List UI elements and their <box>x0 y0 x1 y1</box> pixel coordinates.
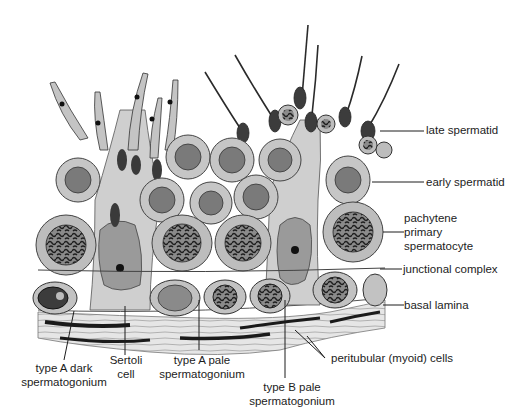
label-pachytene-line-2: primary <box>404 226 442 239</box>
label-junctional-complex: junctional complex <box>403 263 498 276</box>
label-type-b-pale-line-2: spermatogonium <box>245 395 339 408</box>
label-sertoli-line-1: Sertoli <box>105 354 147 367</box>
late-spermatids <box>205 25 399 128</box>
label-early-spermatid: early spermatid <box>426 176 505 189</box>
label-sertoli-line-2: cell <box>105 368 147 381</box>
label-peritubular-cells: peritubular (myoid) cells <box>331 352 453 365</box>
seminiferous-epithelium-diagram: late spermatid early spermatid pachytene… <box>0 0 522 418</box>
label-type-a-dark-line-1: type A dark <box>12 362 116 375</box>
spermatogonia <box>33 272 387 316</box>
label-late-spermatid: late spermatid <box>426 124 498 137</box>
label-pachytene-line-1: pachytene <box>404 212 457 225</box>
label-pachytene-line-3: spermatocyte <box>404 240 473 253</box>
label-type-a-pale-line-2: spermatogonium <box>155 368 249 381</box>
label-type-b-pale-line-1: type B pale <box>245 381 339 394</box>
label-type-a-pale-line-1: type A pale <box>155 354 249 367</box>
junctional-complex <box>38 268 385 272</box>
label-basal-lamina: basal lamina <box>404 299 469 312</box>
label-type-a-dark-line-2: spermatogonium <box>12 376 116 389</box>
